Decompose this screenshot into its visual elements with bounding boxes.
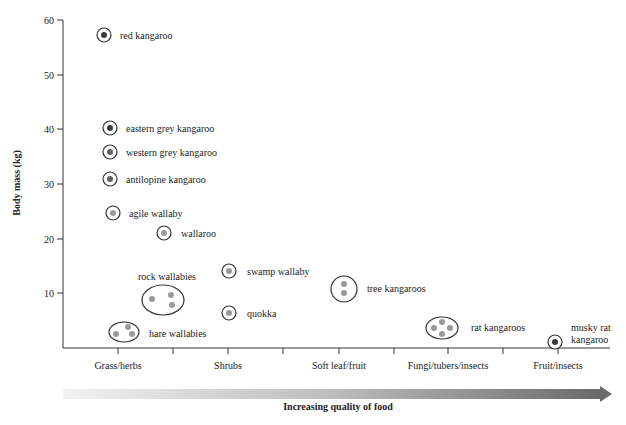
- x-category-fungi-tubers-insects: Fungi/tubers/insects: [408, 360, 489, 371]
- cluster-rat-kangaroos: rat kangaroos: [426, 317, 525, 339]
- point-label: western grey kangaroo: [126, 147, 217, 158]
- point-dot: [439, 331, 445, 337]
- point-dot: [552, 339, 558, 345]
- point-dot: [149, 296, 155, 302]
- point-agile-wallaby: agile wallaby: [106, 206, 183, 220]
- cluster-ring: [331, 276, 357, 302]
- cluster-tree-kangaroos: tree kangaroos: [331, 276, 426, 302]
- cluster-ring: [109, 322, 139, 342]
- point-label: red kangaroo: [120, 30, 172, 41]
- point-swamp-wallaby: swamp wallaby: [222, 264, 310, 278]
- point-label: musky rat: [571, 322, 611, 333]
- point-musky-rat-kangaroo: musky rat kangaroo: [548, 322, 611, 349]
- point-label: kangaroo: [571, 334, 608, 345]
- point-dot: [129, 331, 135, 337]
- point-dot: [107, 176, 113, 182]
- x-category-fruit-insects: Fruit/insects: [533, 360, 583, 371]
- point-dot: [226, 268, 232, 274]
- point-dot: [447, 325, 453, 331]
- point-label: antilopine kangaroo: [126, 174, 206, 185]
- point-label: swamp wallaby: [247, 266, 310, 277]
- point-dot: [161, 230, 167, 236]
- point-red-kangaroo: red kangaroo: [97, 28, 172, 42]
- point-dot: [107, 149, 113, 155]
- y-tick-label-20: 20: [44, 234, 54, 245]
- x-axis-title: Increasing quality of food: [283, 401, 393, 412]
- cluster-rock-wallabies: rock wallabies: [138, 271, 196, 315]
- x-category-shrubs: Shrubs: [214, 360, 242, 371]
- point-western-grey-kangaroo: western grey kangaroo: [103, 145, 217, 159]
- y-tick-label-10: 10: [44, 288, 54, 299]
- x-axis: Grass/herbs Shrubs Soft leaf/fruit Fungi…: [63, 348, 610, 371]
- point-label: rock wallabies: [138, 271, 196, 282]
- x-category-grass-herbs: Grass/herbs: [94, 360, 141, 371]
- point-label: rat kangaroos: [471, 322, 525, 333]
- food-quality-arrow: Increasing quality of food: [63, 386, 612, 412]
- point-quokka: quokka: [222, 306, 277, 320]
- y-tick-label-60: 60: [44, 15, 54, 26]
- point-dot: [341, 290, 347, 296]
- point-dot: [113, 331, 119, 337]
- point-dot: [110, 210, 116, 216]
- point-dot: [431, 325, 437, 331]
- point-dot: [439, 319, 445, 325]
- arrow-shaft: [63, 389, 601, 399]
- point-label: eastern grey kangaroo: [126, 123, 214, 134]
- y-tick-label-30: 30: [44, 179, 54, 190]
- point-label: agile wallaby: [129, 208, 183, 219]
- point-dot: [168, 292, 174, 298]
- body-mass-vs-food-quality-chart: 60 50 40 30 20 10 Body mass (kg) Grass/h…: [0, 0, 626, 425]
- x-category-soft-leaf-fruit: Soft leaf/fruit: [312, 360, 366, 371]
- y-tick-label-40: 40: [44, 124, 54, 135]
- point-antilopine-kangaroo: antilopine kangaroo: [103, 172, 206, 186]
- point-eastern-grey-kangaroo: eastern grey kangaroo: [103, 121, 214, 135]
- point-wallaroo: wallaroo: [157, 226, 216, 240]
- arrow-head-icon: [600, 386, 612, 402]
- y-axis: 60 50 40 30 20 10 Body mass (kg): [11, 15, 63, 349]
- cluster-ring: [142, 285, 184, 315]
- point-label: tree kangaroos: [367, 283, 426, 294]
- point-dot: [226, 310, 232, 316]
- point-dot: [107, 125, 113, 131]
- cluster-hare-wallabies: hare wallabies: [109, 322, 207, 342]
- y-tick-label-50: 50: [44, 70, 54, 81]
- point-dot: [169, 302, 175, 308]
- y-axis-title: Body mass (kg): [11, 150, 23, 216]
- point-label: quokka: [247, 308, 277, 319]
- point-dot: [101, 32, 107, 38]
- point-label: wallaroo: [181, 228, 216, 239]
- point-label: hare wallabies: [149, 328, 207, 339]
- point-dot: [125, 324, 131, 330]
- point-dot: [341, 281, 347, 287]
